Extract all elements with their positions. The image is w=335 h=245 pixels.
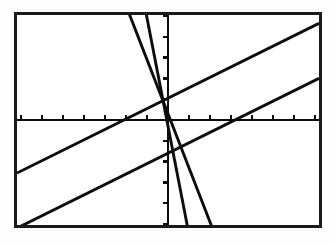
screenshot-root — [0, 0, 335, 245]
graph-plot-area[interactable] — [17, 15, 319, 225]
calculator-graph-display[interactable] — [14, 12, 322, 228]
